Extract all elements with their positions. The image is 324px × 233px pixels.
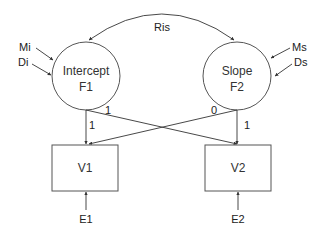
covariance-label: Ris bbox=[154, 21, 170, 33]
factor-f2-id: F2 bbox=[230, 80, 244, 94]
input-ds-label: Ds bbox=[294, 56, 308, 68]
observed-v1-label: V1 bbox=[78, 161, 93, 175]
path-diagram: Ris Intercept F1 Slope F2 Mi Di Ms Ds 1 … bbox=[0, 0, 324, 233]
input-mi-label: Mi bbox=[19, 41, 31, 53]
factor-f1-name: Intercept bbox=[63, 64, 110, 78]
input-di-label: Di bbox=[18, 56, 28, 68]
error-e1-label: E1 bbox=[79, 213, 92, 225]
error-e2-label: E2 bbox=[231, 213, 244, 225]
input-ms-label: Ms bbox=[292, 41, 307, 53]
input-mi-arrow bbox=[36, 48, 53, 60]
input-ms-arrow bbox=[271, 48, 290, 58]
observed-v2: V2 bbox=[205, 145, 271, 191]
factor-f1-id: F1 bbox=[79, 80, 93, 94]
loading-label-f1-v2: 1 bbox=[105, 104, 111, 116]
observed-v1: V1 bbox=[52, 145, 118, 191]
latent-factor-f2: Slope F2 bbox=[203, 42, 271, 110]
observed-v2-label: V2 bbox=[231, 161, 246, 175]
loading-label-f2-v1: 0 bbox=[211, 104, 217, 116]
input-ds-arrow bbox=[275, 64, 292, 76]
latent-factor-f1: Intercept F1 bbox=[52, 42, 120, 110]
factor-f2-name: Slope bbox=[222, 64, 253, 78]
loading-label-f2-v2: 1 bbox=[244, 119, 250, 131]
input-di-arrow bbox=[32, 64, 51, 75]
loading-label-f1-v1: 1 bbox=[89, 119, 95, 131]
